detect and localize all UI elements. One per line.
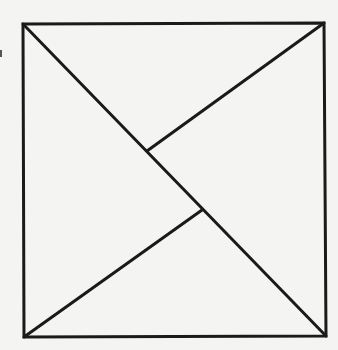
geometry-diagram [0,0,338,350]
scan-artifact-mark [0,50,2,57]
